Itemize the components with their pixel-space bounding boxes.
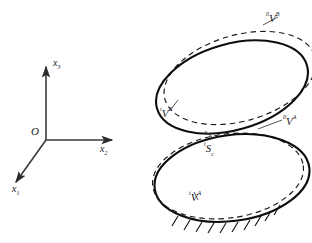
axis-label-x1: x1 — [12, 184, 19, 196]
origin-label: O — [31, 126, 39, 137]
axis-x1-line — [16, 140, 46, 182]
lower-current-superscript: A — [197, 190, 201, 196]
label-upper-current-volume: tVB — [160, 104, 172, 120]
contact-surface-subscript: c — [211, 151, 214, 157]
upper-reference-superscript: B — [276, 11, 280, 17]
lower-body-group — [147, 124, 312, 232]
upper-body-current-outline — [145, 24, 312, 150]
upper-body-group — [145, 15, 312, 150]
upper-reference-symbol: V — [269, 12, 276, 24]
figure-canvas: O x3 x2 x1 0VB tVB 0VA tSc tVA — [0, 0, 312, 243]
label-contact-surface: tSc — [204, 139, 214, 157]
lower-reference-superscript: A — [293, 114, 297, 120]
label-lower-reference-volume: 0VA — [283, 112, 296, 128]
axis-x2-subscript: 2 — [104, 150, 107, 156]
axis-label-x2: x2 — [100, 144, 107, 156]
axis-label-x3: x3 — [53, 58, 60, 70]
axis-x3-subscript: 3 — [57, 64, 60, 70]
lower-reference-symbol: V — [286, 115, 293, 127]
axis-x1-subscript: 1 — [16, 190, 19, 196]
figure-svg — [0, 0, 312, 243]
lower-body-current-outline — [149, 125, 312, 232]
upper-current-superscript: B — [168, 106, 172, 112]
label-upper-reference-volume: 0VB — [266, 9, 279, 25]
label-lower-current-volume: tVA — [189, 188, 201, 204]
